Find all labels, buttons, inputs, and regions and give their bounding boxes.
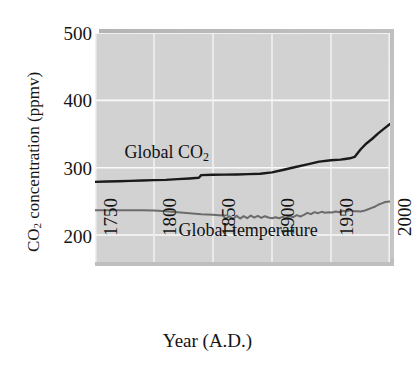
y-axis-title-pre: CO: [24, 228, 43, 252]
chart-figure: CO2 concentration (ppmv) 500 400 300 200…: [0, 0, 415, 372]
x-tick-1950: 1950: [336, 198, 358, 268]
y-tick-400: 400: [48, 91, 92, 110]
y-tick-300: 300: [48, 159, 92, 178]
y-tick-500: 500: [48, 24, 92, 43]
x-tick-1900: 1900: [277, 198, 299, 268]
x-tick-1750: 1750: [100, 198, 122, 268]
y-axis-title-subscript: 2: [31, 223, 43, 229]
y-tick-200: 200: [48, 227, 92, 246]
co2-series-label: Global CO2: [125, 142, 210, 165]
x-tick-2000: 2000: [394, 198, 415, 268]
y-axis-title: CO2 concentration (ppmv): [24, 42, 44, 282]
co2-label-subscript: 2: [203, 150, 209, 164]
x-tick-1850: 1850: [218, 198, 240, 268]
x-axis-title: Year (A.D.): [0, 330, 415, 352]
co2-label-text: Global CO: [125, 142, 204, 162]
y-axis-title-post: concentration (ppmv): [24, 72, 43, 223]
x-tick-1800: 1800: [159, 198, 181, 268]
y-tick-labels: 500 400 300 200: [44, 0, 92, 372]
